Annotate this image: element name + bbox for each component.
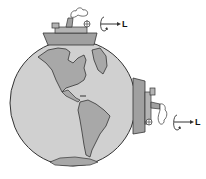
diagram-canvas [0,0,206,179]
side-ship [133,78,194,134]
top-ship-hull [43,33,97,45]
side-ship-hull [133,78,145,134]
top-ship-smoke [71,8,88,18]
top-ship [43,8,121,45]
diagram: L L [0,0,206,179]
earth-globe [10,40,136,166]
side-angular-momentum-label: L [195,118,201,127]
top-angular-momentum-label: L [122,20,128,29]
